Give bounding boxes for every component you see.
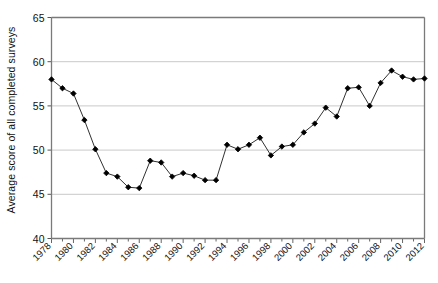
data-line [52,71,425,189]
y-axis-ticks: 404550556065 [33,12,52,245]
data-point [422,76,427,81]
x-axis-tick-labels: 1978198019821984198619881990199219941996… [30,240,426,263]
x-tick-label: 2000 [272,240,295,263]
data-markers [49,68,427,191]
data-point [93,147,98,152]
data-point [246,142,251,147]
x-tick-label: 2002 [293,240,316,263]
data-point [191,173,196,178]
data-point [235,147,240,152]
data-point [148,158,153,163]
y-tick-label: 55 [33,100,45,112]
data-point [400,74,405,79]
x-tick-label: 1998 [250,240,273,263]
data-point [356,85,361,90]
axis-frame [52,18,425,239]
x-tick-label: 1986 [118,240,141,263]
data-point [180,170,185,175]
y-tick-label: 50 [33,144,45,156]
data-point [104,170,109,175]
data-point [213,177,218,182]
plot-area: 404550556065 197819801982198419861988199… [0,0,438,283]
x-tick-label: 2008 [359,240,382,263]
x-tick-label: 2010 [381,240,404,263]
y-tick-label: 60 [33,56,45,68]
x-tick-label: 2006 [337,240,360,263]
x-tick-label: 1990 [162,240,185,263]
x-tick-label: 1996 [228,240,251,263]
data-point [411,77,416,82]
x-tick-label: 2012 [403,240,426,263]
data-point [71,91,76,96]
data-point [345,86,350,91]
x-tick-label: 2004 [315,240,338,263]
x-tick-label: 1982 [74,240,97,263]
data-point [137,185,142,190]
data-point [257,135,262,140]
data-point [82,117,87,122]
y-tick-label: 65 [33,12,45,24]
data-point [224,142,229,147]
line-chart: Average score of all completed surveys 4… [0,0,438,283]
data-point [367,103,372,108]
data-point [202,177,207,182]
x-tick-label: 1984 [96,240,119,263]
x-tick-label: 1980 [52,240,75,263]
x-tick-label: 1994 [206,240,229,263]
x-tick-label: 1988 [140,240,163,263]
y-tick-label: 45 [33,188,45,200]
x-tick-label: 1992 [184,240,207,263]
